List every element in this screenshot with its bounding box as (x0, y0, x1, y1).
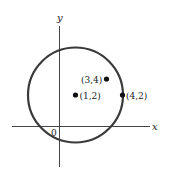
point-dot-3-4 (104, 76, 109, 81)
x-axis-label: x (152, 121, 158, 132)
point-dot-4-2 (120, 92, 125, 97)
circle-diagram: x y 0 (1,2) (3,4) (4,2) (0, 0, 169, 178)
point-label-1-2: (1,2) (80, 91, 101, 101)
origin-label: 0 (51, 128, 57, 138)
point-label-4-2: (4,2) (126, 91, 147, 101)
point-label-3-4: (3,4) (81, 75, 102, 85)
point-dot-1-2 (73, 92, 78, 97)
y-axis-label: y (56, 12, 63, 23)
